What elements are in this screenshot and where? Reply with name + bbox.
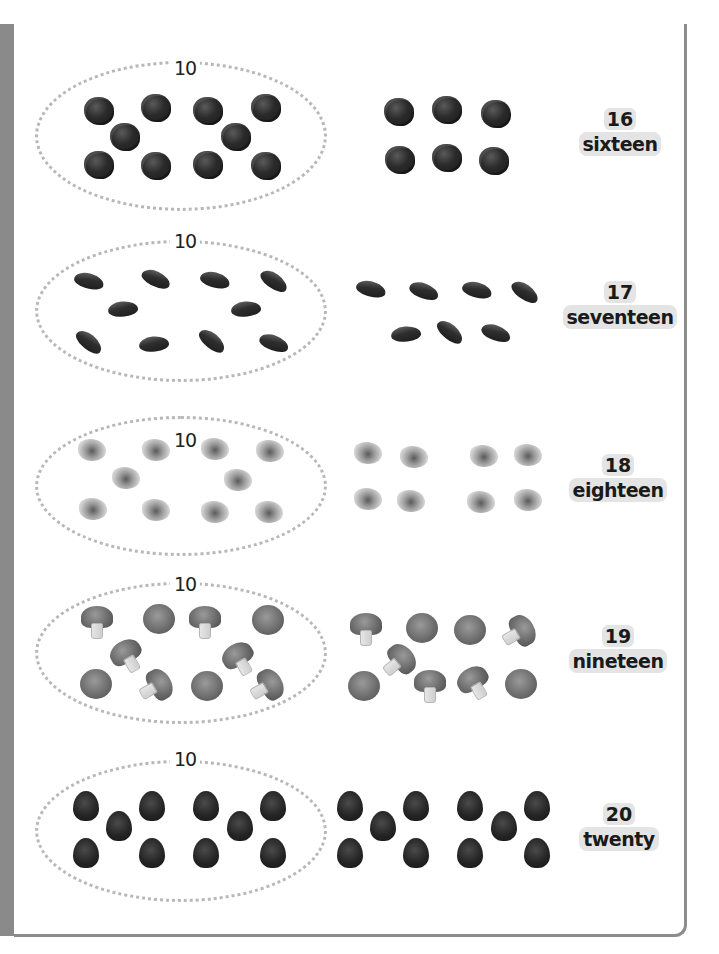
raspberry-icon xyxy=(337,791,363,821)
mushroom-icon xyxy=(81,606,113,640)
raspberry-icon xyxy=(337,838,363,868)
walnut-icon xyxy=(142,439,170,461)
walnut-icon xyxy=(201,501,229,523)
group-of-ten-ellipse xyxy=(35,582,327,724)
raspberry-icon xyxy=(73,791,99,821)
group-of-ten-label: 10 xyxy=(170,231,200,251)
walnut-icon xyxy=(467,491,495,513)
walnut-icon xyxy=(112,467,140,489)
number-label-18: 18 eighteen xyxy=(568,454,668,502)
walnut-icon xyxy=(79,498,107,520)
number-word: nineteen xyxy=(569,649,668,673)
number-word: seventeen xyxy=(563,305,678,329)
walnut-icon xyxy=(354,488,382,510)
raspberry-icon xyxy=(260,791,286,821)
raspberry-icon xyxy=(370,811,396,841)
mushroom-icon xyxy=(505,669,537,703)
walnut-icon xyxy=(400,446,428,468)
walnut-icon xyxy=(78,439,106,461)
raspberry-icon xyxy=(193,838,219,868)
group-of-ten-ellipse xyxy=(35,760,327,902)
walnut-icon xyxy=(142,499,170,521)
numeral: 18 xyxy=(602,454,634,476)
group-of-ten-ellipse xyxy=(35,240,327,382)
walnut-icon xyxy=(514,489,542,511)
raspberry-icon xyxy=(491,811,517,841)
raspberry-icon xyxy=(106,811,132,841)
mushroom-icon xyxy=(252,605,284,639)
mushroom-icon xyxy=(350,613,382,647)
raspberry-icon xyxy=(403,838,429,868)
number-word: eighteen xyxy=(569,478,668,502)
walnut-icon xyxy=(224,469,252,491)
mushroom-icon xyxy=(454,615,486,649)
walnut-icon xyxy=(470,445,498,467)
numeral: 17 xyxy=(604,281,636,303)
walnut-icon xyxy=(397,490,425,512)
mushroom-icon xyxy=(80,669,112,703)
raspberry-icon xyxy=(260,838,286,868)
number-word: twenty xyxy=(579,827,659,851)
number-label-17: 17 seventeen xyxy=(564,281,676,329)
walnut-icon xyxy=(514,444,542,466)
mushroom-icon xyxy=(189,606,221,640)
raspberry-icon xyxy=(524,791,550,821)
walnut-icon xyxy=(354,442,382,464)
number-label-20: 20 twenty xyxy=(574,803,664,851)
numeral: 20 xyxy=(603,803,635,825)
raspberry-icon xyxy=(524,838,550,868)
numeral: 19 xyxy=(602,625,634,647)
walnut-icon xyxy=(201,438,229,460)
number-label-19: 19 nineteen xyxy=(566,625,670,673)
group-of-ten-label: 10 xyxy=(170,749,200,769)
group-of-ten-label: 10 xyxy=(170,574,200,594)
raspberry-icon xyxy=(73,838,99,868)
count-row-20: 10 20 twenty xyxy=(0,0,719,170)
walnut-icon xyxy=(256,440,284,462)
raspberry-icon xyxy=(139,838,165,868)
raspberry-icon xyxy=(193,791,219,821)
mushroom-icon xyxy=(191,671,223,705)
mushroom-icon xyxy=(143,604,175,638)
mushroom-icon xyxy=(348,671,380,705)
raspberry-icon xyxy=(457,838,483,868)
walnut-icon xyxy=(255,501,283,523)
raspberry-icon xyxy=(403,791,429,821)
mushroom-icon xyxy=(406,613,438,647)
raspberry-icon xyxy=(227,811,253,841)
raspberry-icon xyxy=(457,791,483,821)
group-of-ten-label: 10 xyxy=(170,430,200,450)
mushroom-icon xyxy=(414,670,446,704)
raspberry-icon xyxy=(139,791,165,821)
